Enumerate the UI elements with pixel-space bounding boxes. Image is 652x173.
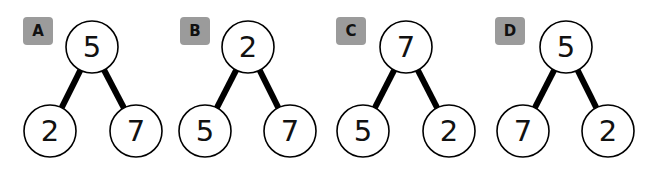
node-left-value: 5 — [337, 105, 389, 157]
edge-right — [577, 68, 598, 109]
node-right-value: 2 — [582, 105, 634, 157]
node-root-value: 5 — [540, 21, 592, 73]
option-label-badge: C — [336, 17, 366, 45]
edge-right — [417, 68, 438, 109]
node-left-value: 7 — [497, 105, 549, 157]
node-right-value: 7 — [110, 105, 162, 157]
node-root-value: 5 — [66, 21, 118, 73]
edge-right — [259, 68, 280, 109]
edge-right — [103, 68, 125, 109]
tree-options-diagram: 527A257B752C572D — [0, 0, 652, 173]
node-right-value: 7 — [264, 105, 316, 157]
node-root-value: 7 — [380, 21, 432, 73]
option-label-badge: B — [180, 17, 210, 45]
option-label-badge: A — [23, 17, 53, 45]
edge-left — [534, 68, 555, 109]
node-left-value: 5 — [179, 105, 231, 157]
option-label-badge: D — [495, 17, 525, 45]
node-left-value: 2 — [24, 105, 76, 157]
edge-left — [374, 68, 395, 109]
node-root-value: 2 — [222, 21, 274, 73]
edge-left — [61, 68, 82, 109]
node-right-value: 2 — [423, 105, 475, 157]
edge-left — [216, 68, 237, 109]
